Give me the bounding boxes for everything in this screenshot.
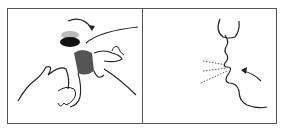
rotation-arrow-icon [68,19,92,29]
panel-step-1: Shake / insert medication [7,8,143,124]
face-profile-icon [143,9,278,125]
panel-step-2: Exhale away from mouthpiece [142,8,277,124]
hand-holding-device-icon [8,9,144,125]
breath-lines-icon [201,61,227,83]
